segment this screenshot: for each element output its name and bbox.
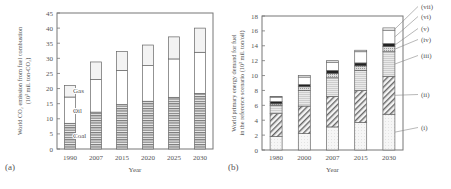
legend-label: (vi) [421, 13, 432, 21]
x-tick-label: 2007 [326, 154, 341, 162]
panel-label: (b) [228, 162, 239, 172]
bar-segment [298, 76, 310, 77]
bar-segment [270, 137, 282, 150]
bar-segment [298, 77, 310, 84]
bar-segment [327, 127, 339, 150]
bar-segment [383, 28, 395, 30]
bar-segment [270, 105, 282, 113]
chart-a: 0510152025303540451990200720152020202520… [5, 10, 213, 175]
bar-segment [327, 96, 339, 127]
x-axis-label: Year [129, 166, 143, 174]
y-tick-label: 0 [255, 147, 259, 155]
legend-leader [395, 56, 418, 65]
x-axis-label: Year [326, 166, 340, 174]
legend-leader [395, 17, 418, 37]
bar-segment [169, 37, 180, 59]
series-annotation: Oil [73, 107, 82, 115]
bar-segment [327, 62, 339, 70]
bar-segment [195, 52, 206, 93]
y-tick-label: 12 [251, 57, 259, 65]
y-tick-label: 35 [46, 40, 54, 48]
legend-label: (i) [421, 124, 428, 132]
bar-segment [383, 114, 395, 150]
y-tick-label: 2 [255, 132, 259, 140]
plot-frame [57, 13, 213, 149]
bar-segment [298, 90, 310, 106]
x-tick-label: 2020 [141, 154, 156, 162]
bar-segment [298, 106, 310, 134]
bar-segment [195, 93, 206, 149]
x-tick-label: 2015 [354, 154, 369, 162]
x-tick-label: 1990 [63, 154, 78, 162]
bar-segment [270, 97, 282, 101]
x-tick-label: 2025 [167, 154, 182, 162]
bar-segment [298, 134, 310, 150]
bar-segment [298, 87, 310, 91]
bar-segment [355, 66, 367, 70]
legend-leader [395, 29, 418, 46]
figure: 0510152025303540451990200720152020202520… [0, 0, 451, 189]
legend-leader [395, 128, 418, 133]
bar-segment [91, 79, 102, 112]
y-tick-label: 15 [46, 100, 54, 108]
x-tick-label: 2015 [115, 154, 130, 162]
bar-segment [270, 96, 282, 97]
y-tick-label: 18 [251, 13, 259, 21]
bar-segment [383, 47, 395, 52]
legend-leader [395, 7, 418, 30]
bar-segment [195, 28, 206, 52]
legend-leader [395, 95, 418, 96]
x-tick-label: 2030 [382, 154, 397, 162]
x-tick-label: 1980 [269, 154, 284, 162]
bar-segment [383, 44, 395, 47]
y-tick-label: 8 [255, 87, 259, 95]
y-tick-label: 0 [50, 146, 54, 154]
legend-label: (iv) [421, 36, 432, 44]
series-annotation: Coal [73, 132, 86, 140]
y-tick-label: 5 [50, 130, 54, 138]
y-tick-label: 30 [46, 55, 54, 63]
bar-segment [355, 122, 367, 150]
bar-segment [355, 52, 367, 63]
y-tick-label: 4 [255, 117, 259, 125]
x-tick-label: 2030 [193, 154, 208, 162]
bar-segment [169, 59, 180, 97]
y-tick-label: 10 [46, 115, 54, 123]
bar-segment [383, 30, 395, 43]
panel-label: (a) [5, 162, 15, 172]
x-tick-label: 2007 [89, 154, 104, 162]
bar-segment [355, 70, 367, 90]
bar-segment [327, 70, 339, 73]
bar-segment [270, 114, 282, 137]
legend-label: (v) [421, 25, 430, 33]
y-tick-label: 45 [46, 10, 54, 18]
bar-segment [355, 50, 367, 51]
legend-label: (ii) [421, 91, 430, 99]
legend-label: (iii) [421, 52, 432, 60]
chart-b: 02468101214161819802000200720152030YearW… [228, 3, 434, 174]
bar-segment [143, 101, 154, 149]
y-axis-label: (10³ mil. ton-CO₂) [24, 58, 32, 105]
legend-leader [395, 40, 418, 50]
bar-segment [143, 66, 154, 102]
bar-segment [327, 61, 339, 62]
y-axis-label: World primary energy demand for fuel [230, 34, 237, 132]
bar-segment [355, 63, 367, 66]
bar-segment [143, 45, 154, 66]
bar-segment [355, 90, 367, 122]
bar-segment [117, 105, 128, 149]
y-axis-label: in the reference scenario (10³ mil. ton/… [238, 30, 246, 135]
bar-segment [383, 76, 395, 114]
legend-label: (vii) [421, 3, 434, 11]
y-tick-label: 16 [251, 27, 259, 35]
y-tick-label: 14 [251, 42, 259, 50]
y-tick-label: 20 [46, 85, 54, 93]
bar-segment [327, 78, 339, 97]
y-tick-label: 25 [46, 70, 54, 78]
x-tick-label: 2000 [297, 154, 312, 162]
bar-segment [91, 112, 102, 149]
bar-segment [327, 73, 339, 77]
bar-segment [117, 51, 128, 70]
bar-segment [169, 97, 180, 149]
y-tick-label: 6 [255, 102, 259, 110]
